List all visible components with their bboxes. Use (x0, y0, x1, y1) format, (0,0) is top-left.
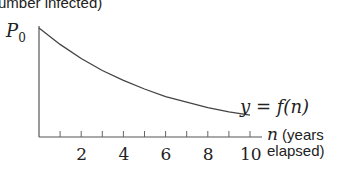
x-ticks (60, 131, 250, 137)
x-tick-label: 10 (240, 144, 260, 164)
x-var: n (267, 124, 278, 144)
x-tick-label: 2 (76, 144, 86, 164)
x-axis-label: n (years elapsed) (267, 127, 325, 159)
x-unit-line2: elapsed) (267, 142, 325, 159)
curve-f-n (39, 28, 250, 115)
x-tick-label: 8 (203, 144, 213, 164)
x-unit-line1: (years (278, 126, 324, 143)
curve-label: y = f(n) (240, 96, 309, 117)
x-tick-label: 6 (161, 144, 171, 164)
x-tick-label: 4 (118, 144, 128, 164)
